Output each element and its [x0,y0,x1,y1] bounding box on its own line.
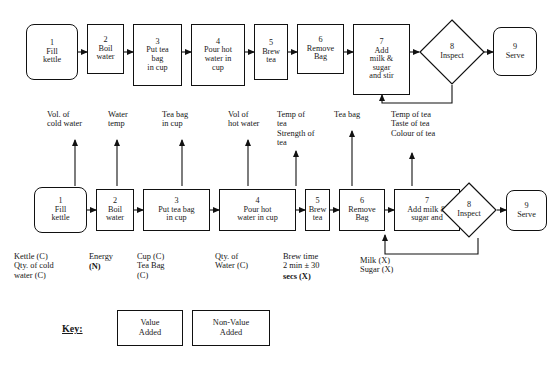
input-label-1: Kettle (C) Qty. of cold water (C) [14,252,80,280]
bottom-step-8-inspect[interactable]: 8 Inspect [441,182,497,238]
bottom-step-1-label: Fill kettle [51,206,69,223]
top-step-9[interactable]: 9 Serve [493,27,537,76]
bottom-step-1[interactable]: 1 Fill kettle [34,187,87,233]
bottom-step-5-label: Brew tea [309,206,327,223]
bottom-step-9[interactable]: 9 Serve [506,190,547,231]
input-label-4: Qty. of Water (C) [215,252,271,271]
bottom-step-8-label: Inspect [457,210,481,219]
bottom-step-3[interactable]: 3 Put tea bag in cup [143,189,210,231]
bottom-step-3-label: Put tea bag in cup [158,206,194,223]
output-arrows [75,131,412,186]
top-step-2-label: Boil water [96,45,114,62]
key-non-value-added-box[interactable]: Non-Value Added [192,310,270,346]
output-label-6: Tea bag [334,110,382,119]
input-label-7: Milk (X) Sugar (X) [360,256,422,275]
top-step-7[interactable]: 7 Add milk & sugar and stir [353,24,410,95]
process-flow-diagram: 1 Fill kettle 2 Boil water 3 Put tea bag… [0,0,559,384]
bottom-step-6-label: Remove Bag [348,206,375,223]
output-label-4: Vol of hot water [228,110,284,129]
input-label-5-class: secs (X) [283,272,359,281]
bottom-step-4-label: Pour hot water in cup [237,206,277,223]
top-step-2[interactable]: 2 Boil water [87,24,124,74]
output-label-1: Vol. of cold water [47,110,113,129]
bottom-step-2-label: Boil water [106,206,124,223]
key-value-added-label: Value Added [139,318,161,337]
top-step-4-label: Pour hot water in cup [204,46,232,72]
bottom-step-2[interactable]: 2 Boil water [96,189,134,231]
top-step-6-label: Remove Bag [307,45,334,62]
output-label-3: Tea bag in cup [162,110,214,129]
top-step-1[interactable]: 1 Fill kettle [26,24,78,80]
bottom-step-9-label: Serve [517,211,536,220]
bottom-step-5[interactable]: 5 Brew tea [305,189,330,231]
top-step-8-label: Inspect [440,52,464,61]
output-label-2: Water temp [108,110,156,129]
top-step-1-label: Fill kettle [43,48,61,65]
top-step-3[interactable]: 3 Put tea bag in cup [133,24,182,86]
bottom-step-4[interactable]: 4 Pour hot water in cup [219,189,296,231]
input-label-2: Energy [89,252,131,261]
output-label-7: Temp of tea Taste of tea Colour of tea [391,110,475,138]
input-label-3: Cup (C) Tea Bag (C) [137,252,187,280]
top-step-7-label: Add milk & sugar and stir [369,47,393,81]
top-step-3-label: Put tea bag in cup [146,46,169,72]
key-title: Key: [62,323,83,334]
key-non-value-added-label: Non-Value Added [213,318,249,337]
top-step-6[interactable]: 6 Remove Bag [297,24,344,74]
bottom-step-6[interactable]: 6 Remove Bag [339,189,385,231]
input-label-5: Brew time 2 min ± 30 [283,252,359,271]
output-label-5: Temp of tea Strength of tea [277,110,333,148]
top-step-5-label: Brew tea [262,48,280,65]
top-step-8-inspect[interactable]: 8 Inspect [419,19,485,85]
top-step-5[interactable]: 5 Brew tea [254,24,288,80]
top-step-9-label: Serve [506,52,525,61]
key-value-added-box[interactable]: Value Added [117,310,183,346]
input-label-2-class: (N) [89,262,131,271]
top-step-4[interactable]: 4 Pour hot water in cup [191,24,245,86]
